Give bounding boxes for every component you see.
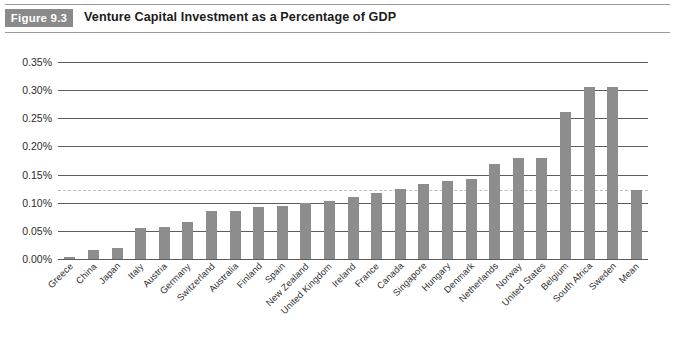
bar <box>206 211 217 259</box>
y-axis-tick-label: 0.00% <box>22 253 52 265</box>
y-axis-tick-label: 0.25% <box>22 112 52 124</box>
plot-area <box>58 62 648 259</box>
x-axis-tick-label: Ireland <box>330 261 358 289</box>
x-axis-tick-label: Greece <box>46 261 75 290</box>
x-axis-tick-labels: GreeceChinaJapanItalyAustriaGermanySwitz… <box>58 261 658 341</box>
bar <box>112 248 123 259</box>
figure-header: Figure 9.3 Venture Capital Investment as… <box>0 0 675 33</box>
bar <box>88 250 99 259</box>
y-axis-tick-labels: 0.35%0.30%0.25%0.20%0.15%0.10%0.05%0.00% <box>0 62 52 259</box>
bar <box>631 190 642 259</box>
bar <box>536 158 547 259</box>
bar <box>513 158 524 259</box>
bar <box>607 87 618 259</box>
bar <box>159 227 170 259</box>
bar <box>135 228 146 259</box>
y-axis-tick-label: 0.10% <box>22 197 52 209</box>
x-axis-tick-label: Finland <box>235 261 264 290</box>
bar <box>348 197 359 259</box>
y-axis-tick-label: 0.30% <box>22 84 52 96</box>
y-axis-tick-label: 0.35% <box>22 56 52 68</box>
bar <box>277 206 288 259</box>
bar <box>64 257 75 259</box>
bar <box>395 189 406 259</box>
gridline <box>58 90 648 91</box>
x-axis-tick-label: Italy <box>126 261 145 280</box>
bar <box>560 112 571 259</box>
bar <box>466 179 477 259</box>
header-divider-top <box>5 4 670 5</box>
bar <box>371 193 382 259</box>
y-axis-tick-label: 0.15% <box>22 169 52 181</box>
bar <box>442 181 453 259</box>
bar <box>182 222 193 259</box>
bar <box>324 201 335 259</box>
gridline <box>58 62 648 63</box>
bar-chart: 0.35%0.30%0.25%0.20%0.15%0.10%0.05%0.00%… <box>0 33 675 341</box>
bar <box>300 203 311 259</box>
x-axis-tick-label: China <box>74 261 99 286</box>
figure-title: Venture Capital Investment as a Percenta… <box>84 10 396 24</box>
bar <box>489 164 500 259</box>
figure-number-badge: Figure 9.3 <box>5 9 73 27</box>
bar <box>253 207 264 259</box>
y-axis-tick-label: 0.20% <box>22 140 52 152</box>
x-axis-tick-label: Japan <box>97 261 122 286</box>
bar <box>584 87 595 259</box>
x-axis-tick-label: Mean <box>617 261 641 285</box>
bar <box>418 184 429 259</box>
y-axis-tick-label: 0.05% <box>22 225 52 237</box>
gridline <box>58 259 648 260</box>
bar <box>230 211 241 259</box>
